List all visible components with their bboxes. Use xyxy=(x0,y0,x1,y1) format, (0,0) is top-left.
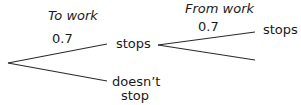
branch-stops-to-blank xyxy=(158,45,255,60)
tree-diagram: To work From work 0.7 0.7 stops stops do… xyxy=(0,0,301,105)
outcome-label-doesnt-stop: doesn’t stop xyxy=(112,75,158,103)
branch-root-to-doesnt-stop xyxy=(8,63,107,81)
stage-header-from-work: From work xyxy=(185,2,254,16)
stage-header-to-work: To work xyxy=(48,9,98,23)
probability-label-from-work-stops: 0.7 xyxy=(198,20,219,34)
outcome-label-doesnt-line1: doesn’t xyxy=(112,75,158,89)
outcome-label-stops: stops xyxy=(116,37,151,51)
probability-label-to-work-stops: 0.7 xyxy=(52,32,73,46)
branch-root-to-stops xyxy=(8,44,107,63)
outcome-label-stops-second: stops xyxy=(263,23,298,37)
outcome-label-stop-line2: stop xyxy=(112,89,158,103)
